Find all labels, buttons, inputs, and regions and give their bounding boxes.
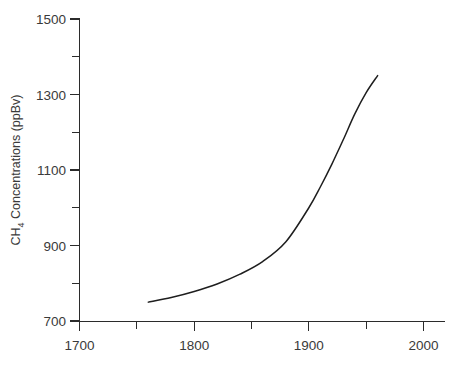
y-tick-label-1500: 1500 [36,12,66,27]
y-tick-label-1100: 1100 [37,163,66,178]
svg-text:CH4 Concentrations (ppBv): CH4 Concentrations (ppBv) [9,95,26,246]
y-major-ticks [70,19,80,321]
x-tick-label-1700: 1700 [64,338,94,353]
chart-figure: 1500 1300 1100 900 700 1700 1800 1900 20… [0,0,453,366]
y-axis-title-suffix: Concentrations (ppBv) [9,95,23,223]
x-tick-label-1900: 1900 [294,338,324,353]
y-tick-label-700: 700 [43,314,66,329]
x-tick-label-2000: 2000 [408,338,438,353]
chart-canvas: 1500 1300 1100 900 700 1700 1800 1900 20… [0,0,453,366]
y-axis-title: CH4 Concentrations (ppBv) [9,95,26,246]
x-minor-ticks [137,322,366,330]
x-tick-label-1800: 1800 [179,338,209,353]
y-tick-label-900: 900 [43,239,66,254]
y-tick-label-1300: 1300 [36,88,66,103]
data-series-line [148,76,377,303]
y-axis-title-prefix: CH [9,227,23,245]
